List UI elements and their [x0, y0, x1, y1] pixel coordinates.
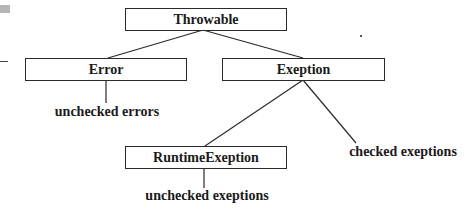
exception-hierarchy-diagram: Throwable Error Exeption RuntimeExeption… — [0, 0, 475, 213]
edge-exeption-checked — [303, 80, 356, 143]
annotation-unchecked-exeptions: unchecked exeptions — [145, 188, 268, 204]
annotation-unchecked-errors: unchecked errors — [55, 104, 159, 120]
node-throwable: Throwable — [125, 8, 287, 31]
annotation-checked-exeptions: checked exeptions — [349, 144, 457, 160]
edge-throwable-exeption — [203, 30, 303, 58]
node-error: Error — [25, 58, 187, 81]
node-runtime-exeption-label: RuntimeExeption — [153, 150, 259, 166]
node-throwable-label: Throwable — [173, 12, 238, 28]
node-error-label: Error — [89, 62, 124, 78]
node-runtime-exeption: RuntimeExeption — [125, 146, 287, 169]
edge-throwable-error — [108, 30, 203, 58]
node-exeption-label: Exeption — [277, 62, 331, 78]
edge-exeption-runtime — [205, 80, 303, 146]
node-exeption: Exeption — [222, 58, 385, 81]
